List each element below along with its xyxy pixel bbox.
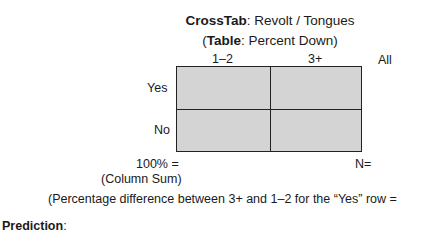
- column-header-3plus: 3+: [308, 52, 322, 66]
- subtitle-bold: Table: [207, 33, 241, 48]
- cell-no-1-2: [177, 109, 270, 151]
- row-header-no: No: [154, 123, 170, 137]
- title-bold: CrossTab: [185, 13, 246, 28]
- page-title: CrossTab: Revolt / Tongues: [0, 13, 434, 28]
- cell-yes-1-2: [177, 67, 270, 109]
- column-header-all: All: [378, 53, 392, 67]
- cell-no-3plus: [270, 109, 361, 151]
- prediction-label: Prediction:: [2, 219, 67, 233]
- page-subtitle: (Table: Percent Down): [0, 33, 434, 48]
- column-total-label: 100% =: [136, 157, 179, 171]
- percentage-difference-note: (Percentage difference between 3+ and 1–…: [48, 192, 397, 206]
- cell-yes-3plus: [270, 67, 361, 109]
- title-rest: : Revolt / Tongues: [247, 13, 355, 28]
- crosstab-table: [176, 66, 362, 152]
- row-header-yes: Yes: [147, 81, 167, 95]
- column-sum-label: (Column Sum): [101, 172, 182, 186]
- subtitle-rest: : Percent Down): [241, 33, 338, 48]
- column-header-1-2: 1–2: [212, 52, 233, 66]
- n-label: N=: [355, 157, 371, 171]
